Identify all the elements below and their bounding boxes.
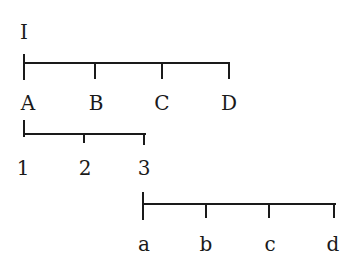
label-d: d: [327, 234, 340, 254]
scale-line: [24, 133, 146, 135]
tick-start: [142, 192, 144, 220]
label-b: b: [200, 234, 213, 254]
label-C: C: [154, 93, 169, 113]
tick-start: [23, 54, 25, 80]
label-2: 2: [79, 158, 92, 178]
label-c: c: [264, 234, 275, 254]
tick: [268, 203, 270, 218]
label-D: D: [221, 93, 237, 113]
scale-line: [143, 203, 336, 205]
tick: [161, 62, 163, 79]
tick: [83, 133, 85, 143]
tick: [228, 62, 230, 79]
scale-line: [24, 62, 229, 64]
tick: [143, 133, 145, 145]
label-A: A: [21, 93, 35, 113]
tick: [333, 203, 335, 218]
tick: [205, 203, 207, 218]
label-B: B: [89, 93, 104, 113]
label-I: I: [20, 22, 28, 42]
label-3: 3: [138, 158, 151, 178]
label-1: 1: [17, 158, 30, 178]
label-a: a: [138, 234, 150, 254]
tick: [94, 62, 96, 79]
